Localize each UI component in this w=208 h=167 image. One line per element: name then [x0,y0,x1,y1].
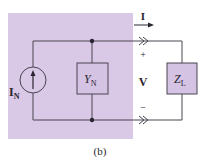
figure-caption: (b) [94,145,107,158]
current-label: I [141,10,145,22]
minus-sign: − [140,102,146,113]
current-source [20,67,46,93]
norton-circuit-diagram: I + V − IN YN ZL (b) [0,0,208,167]
junction-dot-bottom [90,118,94,122]
source-label-subscript: N [14,92,20,101]
load-label-subscript: L [181,79,186,88]
voltage-label: V [139,75,148,89]
current-arrow-head-icon [148,23,154,28]
junction-dot-top [90,39,94,43]
plus-sign: + [140,49,146,60]
admittance-label-subscript: N [91,79,97,88]
